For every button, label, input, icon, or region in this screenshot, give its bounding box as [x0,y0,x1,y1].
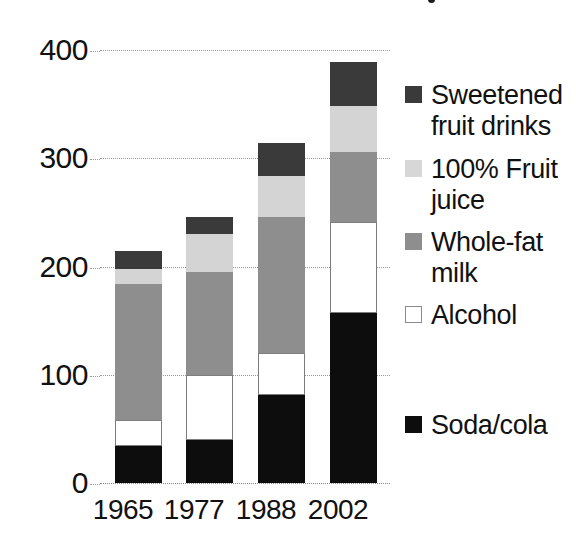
bar-segment-milk-2002 [330,152,377,222]
bar-segment-soda-1988 [258,395,305,483]
stacked-bar-chart: 4003002001000 1965197719882002 Sweetened… [0,0,576,560]
legend-label-alcohol: Alcohol [431,300,517,331]
legend-swatch-alcohol-icon [405,306,422,323]
bar-segment-alcohol-1977 [186,375,233,440]
y-tick-mark-100 [90,376,100,377]
bar-segment-sweet-1988 [258,143,305,175]
bar-segment-sweet-1965 [115,251,162,268]
bar-segment-milk-1965 [115,284,162,420]
bar-segment-alcohol-2002 [330,222,377,313]
legend-swatch-soda-icon [405,416,422,433]
legend-label-sweet: Sweetened fruit drinks [431,80,573,143]
bar-segment-soda-1965 [115,446,162,483]
y-axis-label-100: 100 [8,360,88,390]
bar-segment-alcohol-1965 [115,420,162,446]
bar-segment-juice-2002 [330,106,377,151]
y-tick-mark-300 [90,159,100,160]
bar-segment-juice-1965 [115,269,162,284]
bar-segment-soda-2002 [330,313,377,483]
bar-segment-soda-1977 [186,440,233,483]
y-axis-label-300: 300 [8,143,88,173]
legend-swatch-sweet-icon [405,86,422,103]
bar-2002 [330,62,377,483]
bar-segment-alcohol-1988 [258,353,305,395]
gridline-0 [100,483,390,484]
legend-item-soda[interactable]: Soda/cola [405,410,548,441]
y-tick-mark-0 [90,484,100,485]
bar-segment-juice-1977 [186,234,233,272]
bar-1965 [115,251,162,483]
bar-segment-juice-1988 [258,176,305,217]
bar-segment-milk-1988 [258,217,305,353]
y-tick-mark-200 [90,268,100,269]
x-axis-label-1988: 1988 [229,496,303,524]
y-axis-label-0: 0 [8,468,88,498]
y-tick-mark-400 [90,51,100,52]
legend-swatch-milk-icon [405,233,422,250]
legend-label-soda: Soda/cola [431,410,548,441]
legend-label-juice: 100% Fruit juice [431,154,573,217]
x-axis-label-1965: 1965 [86,496,160,524]
legend-swatch-juice-icon [405,160,422,177]
x-axis-label-2002: 2002 [301,496,375,524]
gridline-400 [100,50,390,51]
bar-segment-sweet-2002 [330,62,377,106]
bar-segment-milk-1977 [186,272,233,375]
legend-item-sweet[interactable]: Sweetened fruit drinks [405,80,573,143]
plot-area [100,50,390,483]
legend-label-milk: Whole-fat milk [431,227,573,290]
legend-item-juice[interactable]: 100% Fruit juice [405,154,573,217]
y-axis-label-200: 200 [8,252,88,282]
bar-1977 [186,217,233,483]
legend-item-alcohol[interactable]: Alcohol [405,300,517,331]
x-axis-label-1977: 1977 [157,496,231,524]
legend-item-milk[interactable]: Whole-fat milk [405,227,573,290]
cropped-title-artifact [428,0,435,3]
bar-segment-sweet-1977 [186,217,233,234]
y-axis-label-400: 400 [8,35,88,65]
bar-1988 [258,143,305,483]
